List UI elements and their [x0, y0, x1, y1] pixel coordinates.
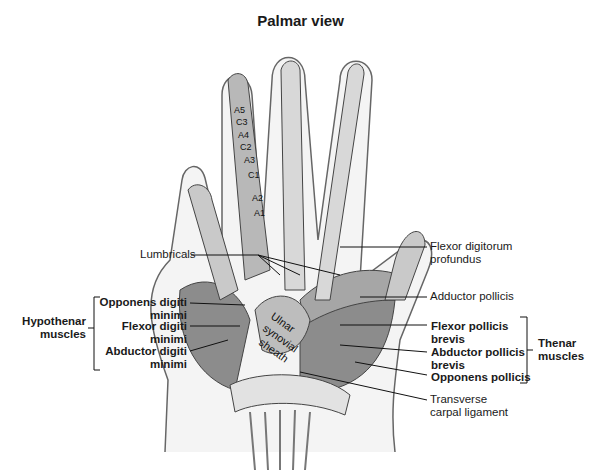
- label-flexor-digiti-minimi: Flexor digiti minimi: [95, 320, 187, 346]
- svg-text:A3: A3: [244, 155, 255, 165]
- svg-text:A2: A2: [252, 193, 263, 203]
- label-adductor-pollicis: Adductor pollicis: [430, 290, 514, 303]
- label-lumbricals: Lumbricals: [140, 248, 196, 261]
- label-opponens-pollicis: Opponens pollicis: [431, 371, 531, 384]
- label-transverse-carpal-ligament: Transverse carpal ligament: [430, 393, 508, 419]
- label-hypothenar-muscles: Hypothenar muscles: [8, 315, 86, 341]
- svg-text:A5: A5: [234, 105, 245, 115]
- svg-text:C3: C3: [236, 117, 248, 127]
- label-flexor-digitorum-profundus: Flexor digitorum profundus: [430, 240, 512, 266]
- label-thenar-muscles: Thenar muscles: [538, 337, 584, 363]
- label-opponens-digiti-minimi: Opponens digiti minimi: [95, 296, 187, 322]
- svg-text:C2: C2: [240, 142, 252, 152]
- svg-text:A4: A4: [238, 130, 249, 140]
- svg-text:A1: A1: [254, 208, 265, 218]
- label-abductor-pollicis-brevis: Abductor pollicis brevis: [431, 346, 525, 372]
- svg-text:C1: C1: [248, 170, 260, 180]
- label-abductor-digiti-minimi: Abductor digiti minimi: [95, 345, 187, 371]
- label-flexor-pollicis-brevis: Flexor pollicis brevis: [431, 320, 508, 346]
- hand-illustration: Ulnar synovial sheath A5 C3 A4 C2 A3 C1 …: [0, 0, 601, 475]
